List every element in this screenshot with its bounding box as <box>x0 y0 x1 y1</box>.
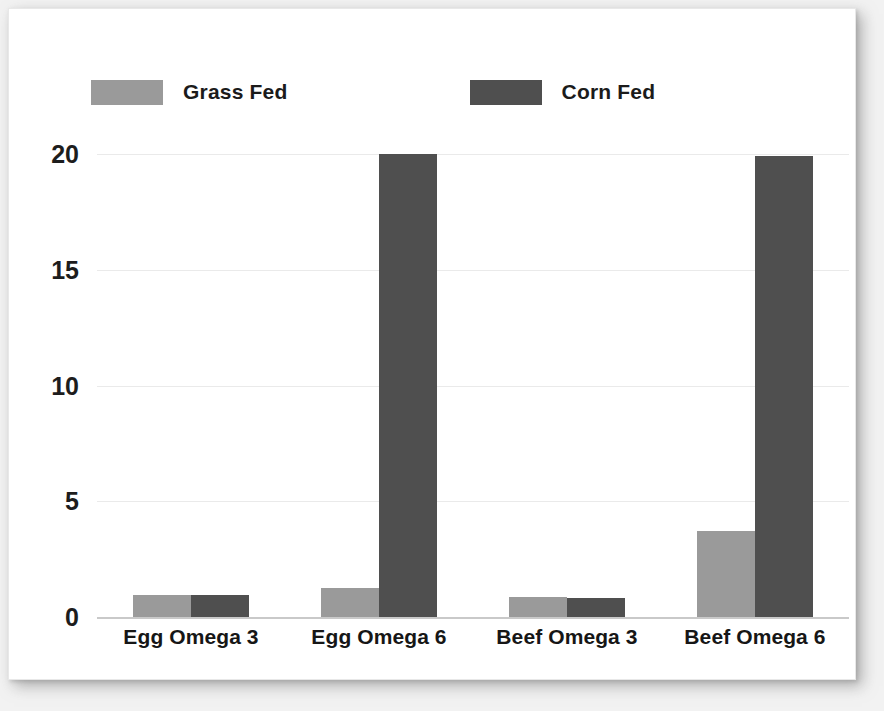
y-axis-tick-label: 0 <box>65 603 79 632</box>
bar-group <box>97 154 285 617</box>
y-axis-tick-label: 10 <box>51 371 79 400</box>
chart-card: Grass Fed Corn Fed 20151050 Egg Omega 3E… <box>8 8 856 680</box>
bar-group <box>661 154 849 617</box>
legend-swatch-corn-fed <box>470 80 542 105</box>
gridline-0 <box>97 617 849 619</box>
legend-label-grass-fed: Grass Fed <box>183 80 288 104</box>
bar[interactable] <box>755 156 813 617</box>
bar[interactable] <box>697 531 755 617</box>
legend-label-corn-fed: Corn Fed <box>562 80 656 104</box>
x-axis-label: Egg Omega 3 <box>97 625 285 649</box>
bar-group <box>285 154 473 617</box>
y-axis-tick-label: 20 <box>51 140 79 169</box>
legend-swatch-grass-fed <box>91 80 163 105</box>
chart-legend: Grass Fed Corn Fed <box>91 71 655 113</box>
bar[interactable] <box>133 595 191 617</box>
x-axis-label: Egg Omega 6 <box>285 625 473 649</box>
bar[interactable] <box>379 154 437 617</box>
plot-area: 20151050 <box>97 154 849 617</box>
bar[interactable] <box>321 588 379 617</box>
bar[interactable] <box>191 595 249 617</box>
x-axis-labels: Egg Omega 3Egg Omega 6Beef Omega 3Beef O… <box>97 625 849 649</box>
x-axis-label: Beef Omega 3 <box>473 625 661 649</box>
y-axis-tick-label: 15 <box>51 255 79 284</box>
y-axis-tick-label: 5 <box>65 487 79 516</box>
legend-item-corn-fed: Corn Fed <box>470 80 656 105</box>
x-axis-label: Beef Omega 6 <box>661 625 849 649</box>
bar-groups <box>97 154 849 617</box>
bar[interactable] <box>567 598 625 617</box>
bar-group <box>473 154 661 617</box>
screenshot-root: Grass Fed Corn Fed 20151050 Egg Omega 3E… <box>0 0 884 711</box>
legend-item-grass-fed: Grass Fed <box>91 80 288 105</box>
bar[interactable] <box>509 597 567 617</box>
